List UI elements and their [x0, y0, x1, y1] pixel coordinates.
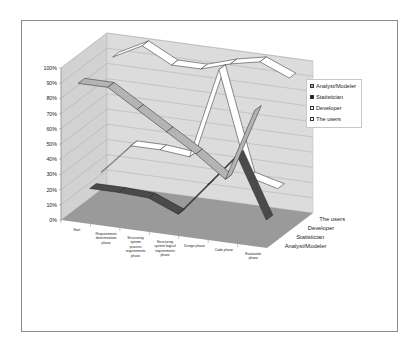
- legend-item-analyst-modeler: Analyst/Modeler: [307, 80, 361, 91]
- legend-swatch-icon: [310, 84, 314, 88]
- y-tick-label: 30%: [46, 171, 57, 177]
- legend-label: Analyst/Modeler: [316, 83, 356, 89]
- y-tick-label: 20%: [46, 187, 57, 193]
- x-tick-label: phase: [249, 256, 258, 260]
- x-tick-label: phase: [160, 253, 169, 257]
- y-tick-label: 80%: [46, 95, 57, 101]
- x-tick-label: phase: [131, 254, 140, 258]
- x-tick-label: Code phase: [215, 248, 233, 252]
- x-tick-label: system: [130, 240, 141, 244]
- legend-item-the-users: The users: [307, 113, 361, 124]
- y-tick-label: 90%: [46, 80, 57, 86]
- chart-plot: 0%10%20%30%40%50%60%70%80%90%100%StartRe…: [0, 0, 417, 346]
- series-axis-label: Statistician: [296, 234, 324, 240]
- series-axis-label: Analyst/Modeler: [285, 243, 327, 249]
- y-tick-label: 60%: [46, 126, 57, 132]
- legend-label: Statistician: [316, 94, 343, 100]
- y-tick-label: 0%: [49, 217, 57, 223]
- y-tick-label: 10%: [46, 202, 57, 208]
- legend-swatch-icon: [310, 117, 314, 121]
- y-tick-label: 100%: [43, 65, 57, 71]
- legend-item-statistician: Statistician: [307, 91, 361, 102]
- x-tick-label: requirements: [126, 249, 146, 253]
- x-tick-label: Structuring: [127, 236, 144, 240]
- x-tick-label: Start: [73, 228, 80, 232]
- legend-item-developer: Developer: [307, 102, 361, 113]
- y-tick-label: 70%: [46, 111, 57, 117]
- series-axis-label: Developer: [308, 225, 334, 231]
- legend-label: Developer: [316, 105, 342, 111]
- x-tick-label: Design phase: [184, 244, 205, 248]
- legend-swatch-icon: [310, 95, 314, 99]
- legend-swatch-icon: [310, 106, 314, 110]
- legend-label: The users: [316, 116, 341, 122]
- x-tick-label: process: [130, 245, 142, 249]
- x-tick-label: phase: [102, 241, 111, 245]
- x-tick-label: Evaluation: [245, 252, 261, 256]
- y-tick-label: 40%: [46, 156, 57, 162]
- legend: Analyst/Modeler Statistician Developer T…: [306, 79, 362, 128]
- x-tick-label: system logical: [154, 244, 176, 248]
- x-tick-label: Requirements: [96, 232, 117, 236]
- x-tick-label: requirements: [155, 249, 175, 253]
- series-axis-label: The users: [319, 216, 345, 222]
- x-tick-label: determination: [96, 236, 117, 240]
- x-tick-label: Structuring: [157, 240, 174, 244]
- y-tick-label: 50%: [46, 141, 57, 147]
